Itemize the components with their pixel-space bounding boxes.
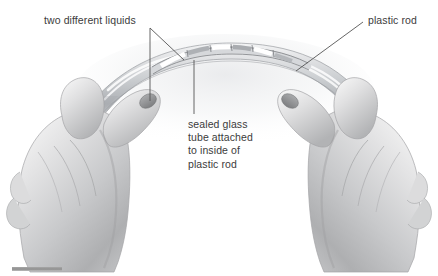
label-plastic-rod: plastic rod — [368, 14, 417, 27]
label-sealed-glass-tube: sealed glass tube attached to inside of … — [188, 118, 253, 171]
liquid-segment-b2 — [233, 47, 251, 49]
left-hand — [7, 78, 161, 272]
figure-canvas: two different liquids plastic rod sealed… — [0, 0, 438, 276]
label-two-different-liquids: two different liquids — [44, 14, 136, 27]
right-hand — [278, 78, 432, 272]
liquid-segment-a2 — [212, 47, 230, 48]
footer-rule — [12, 267, 62, 271]
